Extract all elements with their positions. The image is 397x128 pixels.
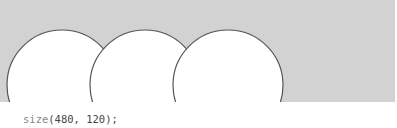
function-arguments: (480, 120); (48, 113, 118, 125)
circles-drawing (0, 0, 395, 102)
sketch-canvas (0, 0, 395, 102)
code-line: size(480, 120); (23, 113, 118, 125)
circle-3 (173, 30, 283, 102)
function-name: size (23, 113, 48, 125)
